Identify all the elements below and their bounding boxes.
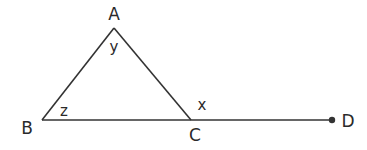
triangle-diagram: A B C D y z x xyxy=(0,0,367,150)
point-label-a: A xyxy=(108,4,120,24)
point-label-b: B xyxy=(21,118,33,138)
point-label-c: C xyxy=(189,125,201,145)
diagram-svg: A B C D y z x xyxy=(0,0,367,150)
segment-ac xyxy=(114,28,191,120)
angle-label-x: x xyxy=(198,96,207,114)
angle-label-z: z xyxy=(60,102,68,120)
point-d-dot xyxy=(329,117,335,123)
segment-ab xyxy=(42,28,114,120)
angle-label-y: y xyxy=(110,38,119,56)
point-label-d: D xyxy=(341,111,354,131)
